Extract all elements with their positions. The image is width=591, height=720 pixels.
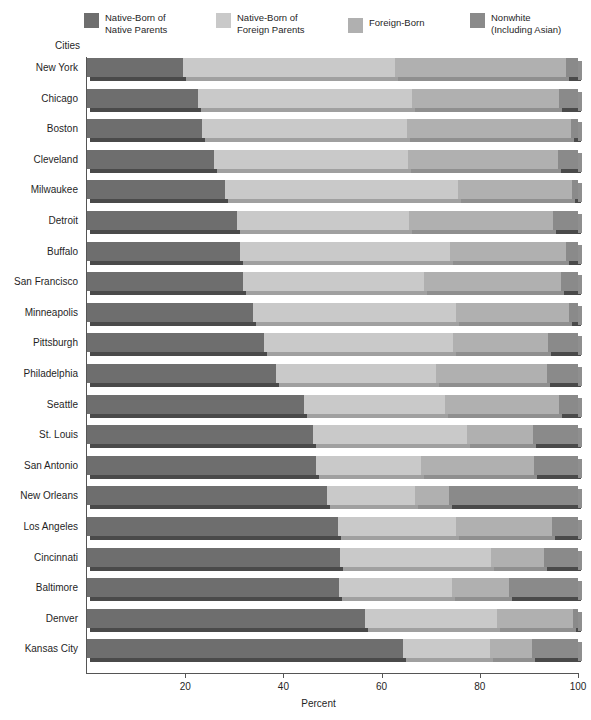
plot-area: [87, 57, 578, 673]
bar-row: [87, 89, 578, 108]
bar-3d-shadow: [90, 108, 581, 112]
segment-foreign-born: [450, 242, 566, 261]
segment-native-born-native-parents: [87, 150, 214, 169]
bar-shadow-edge: [307, 414, 448, 418]
bar-shadow-edge: [455, 597, 512, 601]
stacked-bar: [87, 456, 578, 475]
segment-native-born-native-parents: [87, 425, 313, 444]
bar-shadow-edge: [90, 597, 342, 601]
bar-row: [87, 456, 578, 475]
bar-3d-shadow: [90, 138, 581, 142]
segment-native-born-native-parents: [87, 609, 365, 628]
segment-native-born-foreign-parents: [240, 242, 450, 261]
stacked-bar: [87, 242, 578, 261]
y-axis-label-chicago: Chicago: [0, 89, 78, 108]
segment-foreign-born: [408, 150, 558, 169]
x-axis-title: Percent: [0, 698, 591, 709]
segment-native-born-native-parents: [87, 517, 338, 536]
bar-shadow-edge: [493, 658, 535, 662]
segment-nonwhite: [548, 333, 578, 352]
segment-nonwhite: [552, 517, 578, 536]
bar-shadow-edge: [342, 597, 455, 601]
bar-shadow-edge: [256, 322, 459, 326]
bar-shadow-edge: [205, 138, 410, 142]
bar-shadow-edge: [456, 352, 551, 356]
segment-native-born-foreign-parents: [340, 548, 491, 567]
bar-3d-cap: [578, 642, 582, 661]
bar-shadow-edge: [90, 658, 406, 662]
bar-shadow-edge: [459, 536, 555, 540]
bar-row: [87, 242, 578, 261]
segment-foreign-born: [452, 578, 509, 597]
segment-foreign-born: [415, 486, 449, 505]
segment-foreign-born: [445, 395, 559, 414]
bar-3d-cap: [578, 153, 582, 172]
stacked-bar: [87, 578, 578, 597]
segment-native-born-native-parents: [87, 89, 198, 108]
bar-shadow-edge: [398, 77, 569, 81]
x-tick: [480, 673, 481, 678]
segment-nonwhite: [509, 578, 578, 597]
y-axis-label-buffalo: Buffalo: [0, 242, 78, 261]
stacked-bar: [87, 548, 578, 567]
segment-native-born-foreign-parents: [183, 58, 395, 77]
bar-shadow-edge: [452, 505, 581, 509]
y-axis-label-san-francisco: San Francisco: [0, 272, 78, 291]
bar-shadow-edge: [412, 230, 556, 234]
bar-3d-shadow: [90, 291, 581, 295]
bar-shadow-edge: [439, 383, 550, 387]
segment-native-born-native-parents: [87, 180, 225, 199]
segment-nonwhite: [559, 89, 578, 108]
y-axis-label-milwaukee: Milwaukee: [0, 180, 78, 199]
bar-shadow-edge: [406, 658, 493, 662]
y-axis-label-san-antonio: San Antonio: [0, 456, 78, 475]
bar-shadow-edge: [217, 169, 411, 173]
bar-row: [87, 395, 578, 414]
bar-3d-cap: [578, 336, 582, 355]
bar-3d-shadow: [90, 352, 581, 356]
y-axis-label-boston: Boston: [0, 119, 78, 138]
y-axis-label-seattle: Seattle: [0, 395, 78, 414]
bar-3d-cap: [578, 520, 582, 539]
bar-3d-cap: [578, 398, 582, 417]
bar-shadow-edge: [90, 138, 205, 142]
bar-shadow-edge: [343, 567, 494, 571]
stacked-bar: [87, 486, 578, 505]
bar-row: [87, 58, 578, 77]
bar-3d-cap: [578, 612, 582, 631]
bar-row: [87, 609, 578, 628]
segment-nonwhite: [569, 303, 578, 322]
bar-shadow-edge: [453, 261, 569, 265]
stacked-bar-chart: Cities 20406080100 Percent New YorkChica…: [0, 0, 591, 720]
segment-foreign-born: [453, 333, 548, 352]
segment-native-born-foreign-parents: [327, 486, 415, 505]
bar-3d-shadow: [90, 169, 581, 173]
segment-native-born-foreign-parents: [338, 517, 456, 536]
y-axis-label-los-angeles: Los Angeles: [0, 517, 78, 536]
segment-foreign-born: [497, 609, 573, 628]
stacked-bar: [87, 211, 578, 230]
bar-row: [87, 364, 578, 383]
bar-shadow-edge: [90, 628, 368, 632]
bar-shadow-edge: [228, 199, 461, 203]
segment-nonwhite: [558, 150, 578, 169]
bar-row: [87, 486, 578, 505]
segment-foreign-born: [490, 639, 532, 658]
bar-row: [87, 333, 578, 352]
segment-nonwhite: [561, 272, 578, 291]
segment-native-born-foreign-parents: [276, 364, 436, 383]
stacked-bar: [87, 119, 578, 138]
segment-native-born-foreign-parents: [316, 456, 421, 475]
segment-foreign-born: [407, 119, 571, 138]
bar-shadow-edge: [512, 597, 581, 601]
segment-native-born-native-parents: [87, 333, 264, 352]
y-axis-label-pittsburgh: Pittsburgh: [0, 333, 78, 352]
bar-3d-cap: [578, 122, 582, 141]
stacked-bar: [87, 425, 578, 444]
bar-shadow-edge: [90, 261, 243, 265]
segment-native-born-foreign-parents: [198, 89, 412, 108]
bar-shadow-edge: [537, 475, 581, 479]
stacked-bar: [87, 89, 578, 108]
bar-row: [87, 517, 578, 536]
y-axis-label-kansas-city: Kansas City: [0, 639, 78, 658]
